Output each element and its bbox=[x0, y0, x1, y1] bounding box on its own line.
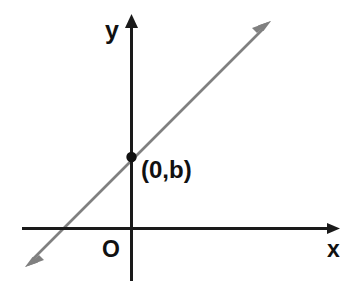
coordinate-plane-svg: y x O (0,b) bbox=[0, 0, 352, 290]
y-intercept-label: (0,b) bbox=[141, 156, 192, 183]
y-intercept-point-marker bbox=[126, 152, 136, 162]
y-axis-arrowhead-icon bbox=[125, 14, 138, 28]
y-axis-label: y bbox=[105, 16, 119, 44]
origin-label: O bbox=[102, 236, 120, 262]
graph-figure: y x O (0,b) bbox=[0, 0, 352, 290]
line-segment bbox=[33, 29, 263, 259]
x-axis-label: x bbox=[327, 236, 340, 262]
linear-function-line bbox=[25, 21, 271, 267]
x-axis-arrowhead-icon bbox=[327, 223, 340, 234]
x-axis bbox=[22, 223, 340, 234]
y-axis bbox=[125, 14, 138, 281]
